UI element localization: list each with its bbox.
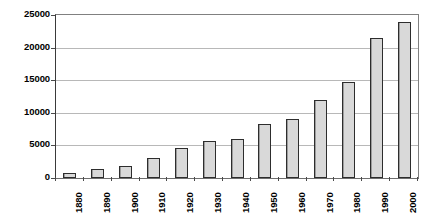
y-tick-mark [51,80,55,81]
x-tick-label: 1970 [325,192,335,213]
bar [398,22,411,178]
x-tick-mark [333,177,334,181]
y-tick-mark [51,145,55,146]
x-tick-mark [166,177,167,181]
bar [370,38,383,178]
y-tick-label: 5000 [2,139,50,149]
bars-group [56,15,418,178]
chart-title [40,0,370,2]
x-tick-label: 1910 [157,192,167,213]
x-tick-label: 2000 [408,192,418,213]
x-tick-mark [389,177,390,181]
bar [147,158,160,178]
y-tick-label: 15000 [2,74,50,84]
bar [342,82,355,178]
x-tick-label: 1960 [297,192,307,213]
x-tick-mark [222,177,223,181]
x-axis: 1880189019001910192019301940195019601970… [55,177,418,220]
bar [231,139,244,178]
y-tick-label: 20000 [2,42,50,52]
x-tick-label: 1950 [269,192,279,213]
x-tick-label: 1880 [74,192,84,213]
x-tick-mark [111,177,112,181]
bar-chart: 0500010000150002000025000 18801890190019… [0,0,428,220]
y-axis: 0500010000150002000025000 [0,0,50,220]
plot-area [55,14,419,179]
y-tick-mark [51,113,55,114]
bar [258,124,271,178]
y-tick-mark [51,48,55,49]
x-tick-label: 1920 [185,192,195,213]
x-tick-mark [306,177,307,181]
bar [203,141,216,178]
x-tick-label: 1890 [102,192,112,213]
x-tick-label: 1930 [213,192,223,213]
x-tick-mark [278,177,279,181]
x-tick-label: 1980 [352,192,362,213]
x-tick-mark [83,177,84,181]
y-tick-label: 25000 [2,9,50,19]
bar [314,100,327,178]
x-tick-mark [361,177,362,181]
x-tick-mark [194,177,195,181]
y-tick-mark [51,15,55,16]
x-tick-label: 1940 [241,192,251,213]
x-tick-mark [417,177,418,181]
x-tick-mark [250,177,251,181]
x-tick-mark [139,177,140,181]
x-tick-label: 1990 [380,192,390,213]
x-tick-label: 1900 [130,192,140,213]
bar [175,148,188,178]
bar [286,119,299,178]
y-tick-label: 10000 [2,107,50,117]
x-tick-mark [55,177,56,181]
y-tick-label: 0 [2,172,50,182]
